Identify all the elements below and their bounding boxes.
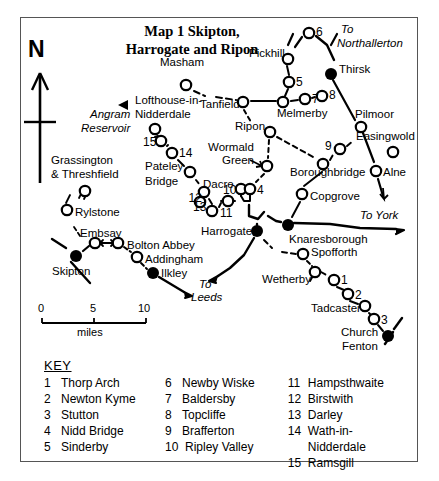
place-marker-knaresborough [282, 219, 294, 231]
numbered-marker-15 [156, 136, 166, 146]
place-label-pilmoor: Pilmoor [355, 109, 394, 121]
map-key: KEY 1Thorp Arch2Newton Kyme3Stutton4Nidd… [44, 358, 404, 472]
place-label-knaresborough: Knaresborough [289, 234, 368, 246]
road-segment [378, 179, 383, 196]
scale-tick-0: 0 [38, 303, 44, 314]
road-segment [256, 174, 264, 182]
road-segment [66, 195, 70, 203]
place-marker-church [382, 330, 394, 342]
place-label-alne: Alne [383, 167, 406, 179]
direction-label-northallerton-2: Northallerton [337, 38, 403, 50]
key-item-number: 10 [165, 440, 185, 456]
place-label-masham: Masham [160, 57, 204, 69]
key-item-number: 2 [44, 392, 61, 408]
numbered-marker-11 [223, 196, 233, 206]
numbered-marker-14 [167, 148, 177, 158]
key-item-number: 12 [288, 392, 308, 408]
numbered-label-10: 10 [223, 184, 236, 196]
place-marker-rylstone [62, 205, 72, 215]
road-segment [268, 140, 269, 158]
place-label-nidderdale: Nidderdale [135, 109, 191, 121]
place-marker-melmerby [278, 97, 288, 107]
key-item: 7Baldersby [165, 392, 288, 408]
numbered-marker-7 [300, 94, 310, 104]
place-marker-easingwold [388, 147, 398, 157]
place-label-reservoir: Reservoir [81, 123, 130, 135]
scale-bar [42, 318, 146, 323]
road-segment [241, 195, 250, 201]
key-column-3: 11Hampsthwaite12Birstwith13Darley14Wath-… [288, 376, 404, 472]
key-item-label: Hampsthwaite [308, 376, 384, 392]
numbered-label-8: 8 [329, 89, 336, 101]
place-label-melmerby: Melmerby [277, 108, 327, 120]
key-item-number: 7 [165, 392, 182, 408]
key-item: 2Newton Kyme [44, 392, 165, 408]
place-label-tadcaster: Tadcaster [311, 303, 361, 315]
key-item-number: 5 [44, 440, 61, 456]
road-segment [52, 239, 66, 248]
road-segment [264, 240, 272, 248]
key-item-number: 11 [288, 376, 308, 392]
key-item: 6Newby Wiske [165, 376, 288, 392]
numbered-label-9: 9 [325, 140, 332, 152]
key-item-label: Ripley Valley [185, 440, 253, 456]
key-item: 1Thorp Arch [44, 376, 165, 392]
key-item-label: Topcliffe [182, 408, 226, 424]
numbered-label-1: 1 [341, 274, 348, 286]
key-item-label: Brafferton [182, 424, 234, 440]
numbered-label-11: 11 [220, 207, 232, 219]
place-marker-copgrove [297, 189, 307, 199]
key-item-label: Darley [308, 408, 343, 424]
place-label-embsay: Embsay [80, 228, 122, 240]
road-segment [316, 36, 334, 60]
road-segment [287, 66, 289, 75]
road-segment [347, 141, 353, 146]
scale-unit-label: miles [77, 327, 103, 338]
road-segment [277, 137, 315, 158]
numbered-marker-6 [304, 28, 314, 38]
key-item: 4Nidd Bridge [44, 424, 165, 440]
road-segment [83, 246, 89, 251]
road-segment [291, 100, 298, 101]
key-item-number: 8 [165, 408, 182, 424]
direction-label-northallerton-1: To [341, 24, 353, 36]
arrow-to-york [396, 229, 404, 234]
road-segment [196, 180, 200, 185]
place-marker-threshfield [80, 186, 90, 196]
numbered-label-4: 4 [257, 184, 264, 196]
numbered-label-14: 14 [179, 147, 192, 159]
place-label-grassington: Grassington [51, 155, 113, 167]
place-label-fenton: Fenton [342, 341, 378, 353]
numbered-label-15: 15 [143, 136, 156, 148]
place-label-tanfield: Tanfield [200, 99, 240, 111]
place-label-rylstone: Rylstone [75, 207, 120, 219]
key-item: 9Brafferton [165, 424, 288, 440]
key-title: KEY [44, 358, 404, 373]
key-item-label: Birstwith [308, 392, 353, 408]
place-marker-masham [181, 80, 191, 90]
numbered-marker-9 [335, 144, 345, 154]
key-item: 8Topcliffe [165, 408, 288, 424]
place-marker-wetherby [310, 267, 320, 277]
road-segment [295, 37, 302, 47]
key-item-label: Baldersby [182, 392, 235, 408]
place-marker-thirsk [325, 68, 337, 80]
north-arrow-icon [24, 73, 56, 183]
numbered-marker-5 [284, 77, 294, 87]
numbered-label-5: 5 [296, 76, 303, 88]
key-columns: 1Thorp Arch2Newton Kyme3Stutton4Nidd Bri… [44, 376, 404, 472]
key-item: 15Ramsgill [288, 456, 404, 472]
key-item: 12Birstwith [288, 392, 404, 408]
place-marker-harrogate [251, 225, 263, 237]
numbered-label-2: 2 [355, 289, 362, 301]
place-label-threshfield: & Threshfield [51, 169, 119, 181]
place-marker-tadcaster [360, 301, 370, 311]
road-segment [333, 80, 355, 120]
place-label-thirsk: Thirsk [339, 64, 370, 76]
road-segment [321, 272, 328, 276]
road-to-york [294, 223, 396, 229]
place-label-wetherby: Wetherby [262, 274, 311, 286]
place-label-lofthouse-in: Lofthouse-in- [135, 95, 202, 107]
key-item-number: 3 [44, 408, 61, 424]
direction-label-leeds-1: To [199, 279, 211, 291]
